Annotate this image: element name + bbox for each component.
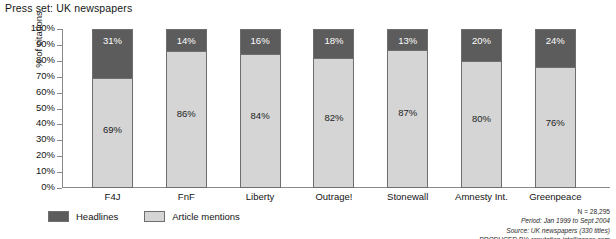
legend-swatch-icon — [48, 211, 69, 222]
bar-segment-value: 84% — [251, 111, 270, 121]
bar-segment-value: 86% — [177, 109, 196, 119]
bar-segment-value: 20% — [472, 36, 491, 46]
bar-segment-article-mentions[interactable]: 80% — [461, 61, 502, 188]
legend-label: Article mentions — [172, 211, 240, 222]
y-axis-tick-label: 90% — [36, 38, 55, 49]
bar-segment-article-mentions[interactable]: 87% — [387, 50, 428, 188]
bar-segment-headlines[interactable]: 20% — [461, 29, 502, 61]
bar-group[interactable]: 13%87% — [387, 29, 428, 188]
x-axis-label: Amnesty Int. — [455, 191, 508, 202]
bar-segment-value: 82% — [324, 113, 343, 123]
bar-segment-value: 31% — [103, 36, 122, 46]
y-axis-tick-label: 30% — [36, 133, 55, 144]
bar-segment-value: 13% — [398, 36, 417, 46]
bar-segment-value: 14% — [177, 36, 196, 46]
x-axis-label: Greenpeace — [529, 191, 581, 202]
bar-segment-value: 76% — [546, 118, 565, 128]
bar-stack[interactable]: 18%82% — [313, 29, 354, 188]
bar-group[interactable]: 20%80% — [461, 29, 502, 188]
bar-stack[interactable]: 31%69% — [92, 29, 133, 188]
chart-legend: Headlines Article mentions — [48, 211, 240, 222]
y-axis-tick-label: 70% — [36, 70, 55, 81]
bar-segment-headlines[interactable]: 24% — [535, 29, 576, 67]
legend-item-headlines: Headlines — [48, 211, 118, 222]
bar-stack[interactable]: 14%86% — [166, 29, 207, 188]
y-axis-tick-label: 100% — [31, 22, 55, 33]
bar-group[interactable]: 24%76% — [535, 29, 576, 188]
bar-group[interactable]: 16%84% — [240, 29, 281, 188]
bar-group[interactable]: 31%69% — [92, 29, 133, 188]
y-axis-tick-label: 10% — [36, 165, 55, 176]
bar-segment-headlines[interactable]: 16% — [240, 29, 281, 54]
bar-stack[interactable]: 20%80% — [461, 29, 502, 188]
bar-group[interactable]: 18%82% — [313, 29, 354, 188]
legend-label: Headlines — [76, 211, 118, 222]
x-axis-labels: F4JFnFLibertyOutrage!StonewallAmnesty In… — [63, 191, 610, 207]
legend-swatch-icon — [144, 211, 165, 222]
footnote-source: Source: UK newspapers (330 titles) — [480, 226, 610, 235]
bar-segment-value: 69% — [103, 125, 122, 135]
bar-stack[interactable]: 16%84% — [240, 29, 281, 188]
y-axis-tick-mark — [57, 188, 62, 189]
legend-item-article-mentions: Article mentions — [144, 211, 240, 222]
chart-container: Press set: UK newspapers % of citations … — [0, 0, 616, 239]
bar-segment-value: 24% — [546, 36, 565, 46]
bar-segment-headlines[interactable]: 13% — [387, 29, 428, 50]
bar-segment-article-mentions[interactable]: 69% — [92, 78, 133, 188]
x-axis-label: Liberty — [246, 191, 275, 202]
y-axis-tick-label: 50% — [36, 102, 55, 113]
bar-stack[interactable]: 13%87% — [387, 29, 428, 188]
x-axis-label: FnF — [178, 191, 195, 202]
x-axis-label: F4J — [105, 191, 121, 202]
bar-segment-headlines[interactable]: 18% — [313, 29, 354, 58]
chart-title: Press set: UK newspapers — [5, 2, 132, 14]
footnote-producer: PRODUCED BY: reputation-intelligence.com — [480, 235, 610, 239]
footnote-sample-size: N = 28,295 — [480, 207, 610, 216]
bars-layer: 31%69%14%86%16%84%18%82%13%87%20%80%24%7… — [63, 29, 610, 188]
y-axis-tick-label: 20% — [36, 149, 55, 160]
y-axis-ticks: 100%90%80%70%60%50%40%30%20%10%0% — [0, 29, 62, 188]
y-axis-tick-label: 80% — [36, 54, 55, 65]
bar-segment-headlines[interactable]: 14% — [166, 29, 207, 51]
bar-segment-value: 87% — [398, 108, 417, 118]
chart-footnote: N = 28,295 Period: Jan 1999 to Sept 2004… — [480, 207, 610, 239]
bar-segment-article-mentions[interactable]: 84% — [240, 54, 281, 188]
footnote-period: Period: Jan 1999 to Sept 2004 — [480, 216, 610, 225]
x-axis-label: Outrage! — [315, 191, 352, 202]
bar-segment-headlines[interactable]: 31% — [92, 29, 133, 78]
x-axis-label: Stonewall — [387, 191, 428, 202]
bar-segment-value: 16% — [251, 36, 270, 46]
y-axis-tick-label: 60% — [36, 86, 55, 97]
bar-stack[interactable]: 24%76% — [535, 29, 576, 188]
bar-group[interactable]: 14%86% — [166, 29, 207, 188]
y-axis-tick-label: 0% — [41, 181, 55, 192]
bar-segment-value: 80% — [472, 114, 491, 124]
y-axis-tick-label: 40% — [36, 117, 55, 128]
bar-segment-article-mentions[interactable]: 82% — [313, 58, 354, 188]
bar-segment-article-mentions[interactable]: 76% — [535, 67, 576, 188]
bar-segment-value: 18% — [324, 36, 343, 46]
bar-segment-article-mentions[interactable]: 86% — [166, 51, 207, 188]
